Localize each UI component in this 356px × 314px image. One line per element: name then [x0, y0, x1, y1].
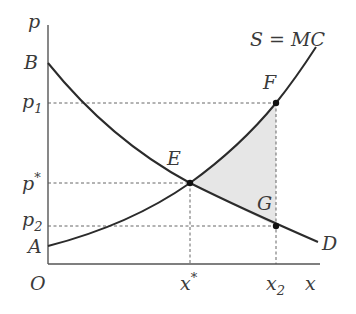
tick-p2-label: p2 [22, 208, 42, 234]
y-axis-label: p [28, 10, 40, 32]
supply-demand-diagram: p x O B A S = MC D E F G p1 p* p2 x* x2 [0, 0, 356, 314]
supply-curve-label: S = MC [250, 28, 325, 50]
tick-xstar-label: x* [180, 270, 198, 294]
demand-curve-label: D [321, 232, 337, 254]
point-e [187, 180, 193, 186]
origin-label: O [30, 272, 46, 294]
tick-pstar-label: p* [22, 170, 41, 194]
point-g [273, 223, 279, 229]
tick-x2-label: x2 [266, 272, 285, 298]
point-g-label: G [257, 192, 272, 214]
intercept-b-label: B [23, 51, 38, 73]
intercept-a-label: A [26, 235, 42, 257]
point-f-label: F [262, 71, 277, 93]
point-e-label: E [166, 147, 181, 169]
x-axis-label: x [305, 272, 316, 294]
demand-curve [48, 63, 318, 242]
point-f [273, 100, 279, 106]
tick-p1-label: p1 [22, 90, 42, 116]
